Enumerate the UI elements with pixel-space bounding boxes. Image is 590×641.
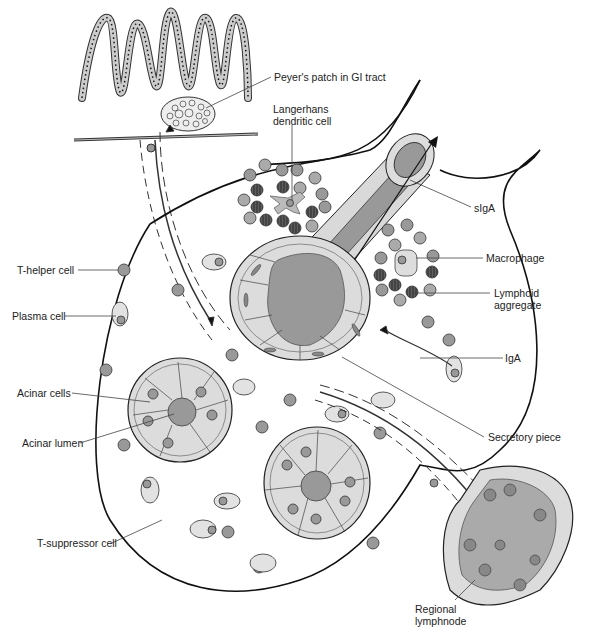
label-t-helper: T-helper cell xyxy=(17,264,74,276)
macrophage-cell xyxy=(395,250,417,276)
label-lymphoid-2: aggregate xyxy=(494,299,541,311)
label-langerhans-text: Langerhans dendritic cell xyxy=(273,103,339,127)
label-lymphnode-1: Regional xyxy=(415,603,456,615)
label-plasma-cell: Plasma cell xyxy=(12,310,66,322)
acinus-bottom xyxy=(264,427,370,539)
label-lymphoid-1: Lymphoid xyxy=(494,287,539,299)
label-langerhans-1: Langerhans dendritic cell xyxy=(273,103,339,127)
acinus-left xyxy=(128,358,232,462)
label-macrophage: Macrophage xyxy=(486,252,544,264)
label-t-suppressor: T-suppressor cell xyxy=(37,537,117,549)
lymphoid-cluster-top xyxy=(238,159,331,234)
lymph-node xyxy=(443,466,572,605)
label-peyers-patch: Peyer's patch in GI tract xyxy=(274,71,386,83)
gi-villi xyxy=(82,12,248,98)
label-acinar-lumen: Acinar lumen xyxy=(22,437,83,449)
label-secretory-piece: Secretory piece xyxy=(488,431,561,443)
label-iga: IgA xyxy=(505,352,521,364)
label-acinar-cells: Acinar cells xyxy=(17,387,71,399)
label-siga: sIgA xyxy=(474,202,495,214)
secretory-unit-large xyxy=(230,236,370,360)
lymph-channel-in xyxy=(140,125,230,340)
label-lymphnode-2: lymphnode xyxy=(415,615,466,627)
